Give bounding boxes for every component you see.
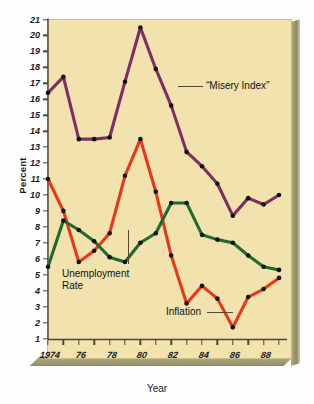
x-tick-label: 76 <box>75 350 86 360</box>
y-tick-mark <box>43 67 48 68</box>
y-tick-label: 4 <box>18 286 40 296</box>
y-tick-label: 16 <box>18 94 40 104</box>
plate-bevel-right <box>291 19 300 366</box>
y-tick-mark <box>43 19 48 20</box>
y-tick-mark <box>43 114 48 115</box>
y-tick-label: 6 <box>18 254 40 264</box>
misery-index-leader <box>178 86 203 87</box>
x-tick-mark <box>217 340 218 345</box>
y-tick-mark <box>43 226 48 227</box>
y-tick-mark <box>43 322 48 323</box>
y-tick-mark <box>43 242 48 243</box>
unemployment-rate-leader <box>128 230 129 264</box>
y-tick-label: 15 <box>18 110 40 120</box>
y-tick-mark <box>43 162 48 163</box>
unemployment-rate-label: Unemployment Rate <box>62 268 129 291</box>
y-tick-label: 11 <box>18 174 40 184</box>
x-tick-mark <box>247 340 248 345</box>
y-tick-label: 1 <box>18 334 40 344</box>
inflation-leader <box>207 312 233 313</box>
x-tick-mark <box>170 340 171 345</box>
unemployment-rate-label-line2: Rate <box>62 280 129 292</box>
y-tick-label: 2 <box>18 318 40 328</box>
x-tick-mark <box>201 340 202 345</box>
y-tick-mark <box>43 130 48 131</box>
y-tick-label: 10 <box>18 190 40 200</box>
y-tick-label: 14 <box>18 126 40 136</box>
x-tick-mark <box>63 340 64 345</box>
y-tick-mark <box>43 35 48 36</box>
unemployment-rate-label-line1: Unemployment <box>62 268 129 280</box>
y-tick-label: 3 <box>18 302 40 312</box>
x-tick-mark <box>186 340 187 345</box>
x-tick-label: 82 <box>167 350 178 360</box>
y-tick-label: 8 <box>18 222 40 232</box>
y-tick-mark <box>43 258 48 259</box>
misery-index-label: “Misery Index” <box>206 80 269 92</box>
x-axis-title: Year <box>0 383 314 394</box>
y-tick-mark <box>43 274 48 275</box>
x-tick-label: 88 <box>260 350 271 360</box>
y-tick-label: 21 <box>18 15 40 25</box>
inflation-label: Inflation <box>166 306 201 318</box>
y-tick-mark <box>43 51 48 52</box>
y-tick-mark <box>43 290 48 291</box>
y-tick-label: 9 <box>18 206 40 216</box>
x-tick-label: 1974 <box>39 350 60 360</box>
y-tick-label: 7 <box>18 238 40 248</box>
y-tick-mark <box>43 178 48 179</box>
y-tick-mark <box>43 306 48 307</box>
x-tick-mark <box>278 340 279 345</box>
y-tick-mark <box>43 83 48 84</box>
x-tick-mark <box>78 340 79 345</box>
y-tick-label: 13 <box>18 142 40 152</box>
y-tick-mark <box>43 99 48 100</box>
x-tick-label: 86 <box>229 350 240 360</box>
y-tick-label: 12 <box>18 158 40 168</box>
y-tick-label: 5 <box>18 270 40 280</box>
y-tick-label: 18 <box>18 62 40 72</box>
x-tick-mark <box>263 340 264 345</box>
y-tick-mark <box>43 146 48 147</box>
x-tick-label: 80 <box>137 350 148 360</box>
x-tick-mark <box>47 340 48 345</box>
y-tick-label: 17 <box>18 78 40 88</box>
x-tick-mark <box>232 340 233 345</box>
x-tick-mark <box>140 340 141 345</box>
x-tick-mark <box>93 340 94 345</box>
x-tick-mark <box>155 340 156 345</box>
x-tick-mark <box>124 340 125 345</box>
y-tick-mark <box>43 210 48 211</box>
y-tick-label: 20 <box>18 30 40 40</box>
x-tick-label: 84 <box>198 350 209 360</box>
x-tick-mark <box>109 340 110 345</box>
chart-figure: Percent Year 212019181716151413121110987… <box>0 0 314 404</box>
y-tick-label: 19 <box>18 46 40 56</box>
y-tick-mark <box>43 194 48 195</box>
x-tick-label: 78 <box>106 350 117 360</box>
